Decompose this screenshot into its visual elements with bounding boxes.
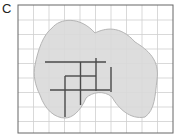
grid-diagram [0, 0, 174, 137]
